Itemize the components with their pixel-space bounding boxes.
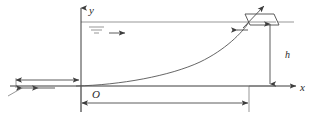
depth-label: h [285, 49, 290, 60]
diagram-canvas: y x O h [0, 0, 311, 124]
x-axis-label: x [299, 81, 305, 93]
boat-towing-diagram: y x O h [0, 0, 311, 124]
boat-icon [245, 14, 279, 25]
y-axis-label: y [88, 4, 94, 16]
bottom-dimension [81, 86, 249, 112]
depth-dimension [249, 22, 276, 86]
origin-label: O [92, 88, 100, 100]
water-level-icon [89, 27, 104, 33]
tow-rope-curve [76, 22, 249, 86]
pull-arrows-icon [8, 88, 55, 96]
